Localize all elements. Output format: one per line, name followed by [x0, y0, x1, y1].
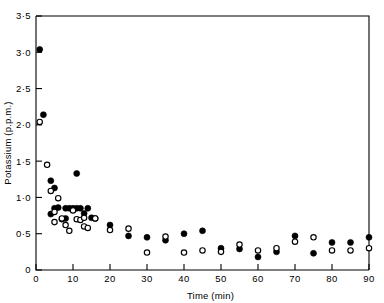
y-tick-label: 2·5	[16, 83, 31, 94]
x-tick-label: 30	[141, 273, 152, 284]
data-point-open	[181, 250, 186, 255]
chart-figure: 0102030405060708090 00·51·01·52·02·53·03…	[0, 0, 384, 303]
x-tick-label: 50	[215, 273, 226, 284]
data-point-open	[52, 209, 57, 214]
data-point-open	[237, 242, 242, 247]
y-tick-label: 0·5	[16, 228, 31, 239]
data-point-filled	[200, 228, 206, 234]
data-point-open	[329, 248, 334, 253]
data-point-open	[81, 215, 86, 220]
data-point-filled	[48, 178, 54, 184]
data-point-open	[126, 226, 131, 231]
x-tick-label: 70	[289, 273, 300, 284]
data-point-open	[63, 222, 68, 227]
data-point-open	[274, 246, 279, 251]
data-point-filled	[181, 231, 187, 237]
data-point-open	[85, 225, 90, 230]
data-point-filled	[74, 170, 80, 176]
data-points	[37, 46, 372, 260]
data-point-open	[200, 248, 205, 253]
y-axis-title: Potassium (p.p.m.)	[2, 101, 13, 184]
data-point-open	[255, 248, 260, 253]
data-point-open	[44, 162, 49, 167]
x-tick-label: 60	[252, 273, 263, 284]
y-tick-label: 2·0	[16, 119, 31, 130]
data-point-filled	[366, 234, 372, 240]
x-tick-label: 20	[104, 273, 115, 284]
data-point-open	[52, 219, 57, 224]
x-tick-label: 40	[178, 273, 189, 284]
x-tick-label: 0	[33, 273, 39, 284]
x-tick-label: 10	[67, 273, 78, 284]
data-point-open	[366, 246, 371, 251]
x-axis-ticks	[36, 264, 369, 270]
y-tick-label: 1·0	[16, 192, 31, 203]
data-point-open	[67, 228, 72, 233]
data-point-open	[311, 235, 316, 240]
x-axis-title: Time (min)	[187, 290, 234, 301]
data-point-filled	[77, 205, 83, 211]
data-point-filled	[40, 112, 46, 118]
data-point-open	[59, 216, 64, 221]
data-point-open	[292, 239, 297, 244]
data-point-open	[56, 195, 61, 200]
y-axis-ticks	[36, 16, 42, 270]
x-tick-label: 90	[363, 273, 374, 284]
data-point-filled	[85, 205, 91, 211]
y-tick-label: 3·5	[16, 10, 31, 21]
data-point-filled	[348, 239, 354, 245]
x-tick-label: 80	[326, 273, 337, 284]
data-point-open	[37, 119, 42, 124]
series-open-circles	[37, 119, 372, 255]
data-point-filled	[255, 254, 261, 260]
y-tick-label: 3·0	[16, 47, 31, 58]
data-point-filled	[292, 233, 298, 239]
data-point-filled	[144, 234, 150, 240]
data-point-open	[107, 227, 112, 232]
data-point-open	[218, 249, 223, 254]
data-point-open	[348, 248, 353, 253]
data-point-filled	[311, 250, 317, 256]
data-point-filled	[329, 239, 335, 245]
y-tick-label: 1·5	[16, 156, 31, 167]
scatter-plot: 0102030405060708090 00·51·01·52·02·53·03…	[0, 0, 384, 303]
data-point-open	[144, 250, 149, 255]
y-axis-tick-labels: 00·51·01·52·02·53·03·5	[16, 10, 31, 275]
data-point-open	[93, 216, 98, 221]
y-tick-label: 0	[25, 264, 31, 275]
data-point-open	[163, 234, 168, 239]
x-axis-tick-labels: 0102030405060708090	[33, 273, 375, 284]
data-point-open	[70, 208, 75, 213]
data-point-filled	[126, 233, 132, 239]
data-point-open	[48, 188, 53, 193]
data-point-filled	[37, 46, 43, 52]
